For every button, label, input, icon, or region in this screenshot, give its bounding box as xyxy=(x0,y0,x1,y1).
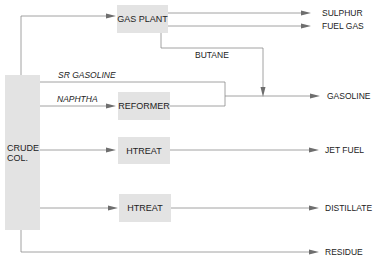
htreat-label-1: HTREAT xyxy=(126,146,161,156)
product-gasoline: GASOLINE xyxy=(327,91,370,101)
reformer-label: REFORMER xyxy=(118,101,170,111)
htreat-box-2: HTREAT xyxy=(119,194,171,222)
htreat-box-1: HTREAT xyxy=(118,137,170,164)
line-residue xyxy=(21,230,311,252)
arrow-icon xyxy=(310,94,320,99)
arrow-icon xyxy=(309,148,319,153)
crude-column-box: CRUDE COL. xyxy=(5,75,40,230)
product-distillate: DISTILLATE xyxy=(325,203,372,213)
product-jet-fuel: JET FUEL xyxy=(325,145,364,155)
product-fuel-gas: FUEL GAS xyxy=(322,21,364,31)
line-butane xyxy=(161,33,263,88)
arrow-icon xyxy=(309,250,319,255)
crude-column-label-line2: COL. xyxy=(7,153,28,163)
htreat-label-2: HTREAT xyxy=(127,203,162,213)
crude-column-label-line1: CRUDE xyxy=(7,143,39,153)
gas-plant-label: GAS PLANT xyxy=(117,14,168,24)
arrow-icon xyxy=(106,148,116,153)
gas-plant-box: GAS PLANT xyxy=(117,5,168,33)
arrow-icon xyxy=(108,206,118,211)
arrow-icon xyxy=(261,87,266,97)
arrow-icon xyxy=(301,11,311,16)
arrow-icon xyxy=(106,14,116,19)
reformer-box: REFORMER xyxy=(118,92,170,120)
flow-lines xyxy=(0,0,374,264)
line-crude-to-gasplant xyxy=(21,16,108,75)
naphtha-label: NAPHTHA xyxy=(57,94,98,104)
sr-gasoline-label: SR GASOLINE xyxy=(58,70,116,80)
arrow-icon xyxy=(301,24,311,29)
arrow-icon xyxy=(309,206,319,211)
product-residue: RESIDUE xyxy=(325,247,363,257)
product-sulphur: SULPHUR xyxy=(322,8,363,18)
line-reformer-out xyxy=(170,96,312,106)
arrow-icon xyxy=(106,104,116,109)
butane-label: BUTANE xyxy=(195,50,229,60)
